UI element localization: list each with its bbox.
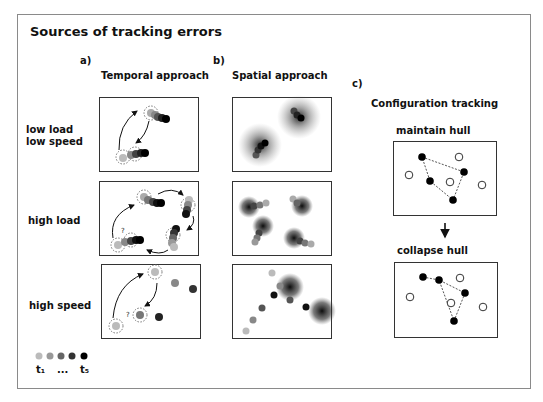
- temporal-highload-content: ?: [111, 190, 195, 253]
- temporal-highspeed-content: ?: [109, 265, 197, 333]
- temporal-low-content: [116, 106, 170, 164]
- spatial-low-content: [238, 95, 321, 167]
- svg-text:?: ?: [126, 311, 130, 319]
- question-mark: ?: [121, 227, 125, 235]
- legend-t5: t₅: [80, 364, 89, 375]
- spatial-highspeed-content: [243, 270, 337, 335]
- legend-t1: t₁: [36, 364, 45, 375]
- collapse-hull-content: [406, 273, 487, 325]
- maintain-hull-content: [405, 153, 486, 204]
- time-legend: [36, 353, 88, 360]
- diagram-graphics: ? ?: [0, 0, 543, 402]
- legend-ellipsis: ...: [57, 364, 68, 375]
- spatial-highload-content: [238, 195, 315, 249]
